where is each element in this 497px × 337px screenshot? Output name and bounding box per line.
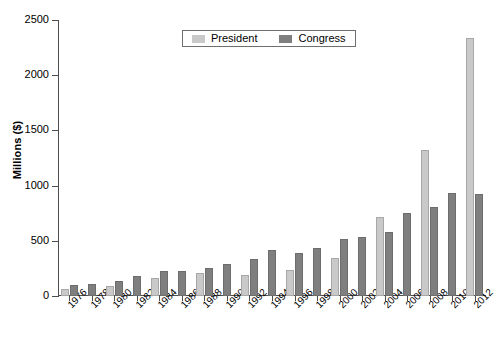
bar-congress-2006 [403, 213, 411, 296]
bar-congress-2002 [358, 237, 366, 296]
bar-congress-1992 [250, 259, 258, 296]
bar-group [171, 20, 194, 296]
legend-entry-congress: Congress [279, 33, 345, 44]
legend-swatch-president-icon [192, 35, 205, 43]
bar-president-1980 [106, 286, 114, 296]
bar-president-1988 [196, 273, 204, 296]
bar-congress-1982 [133, 276, 141, 296]
bar-congress-1980 [115, 281, 123, 296]
bar-group [81, 20, 104, 296]
bar-group [103, 20, 126, 296]
legend-swatch-congress-icon [279, 35, 292, 43]
chart-legend: PresidentCongress [182, 30, 356, 47]
bar-group [238, 20, 261, 296]
bar-congress-1994 [268, 250, 276, 296]
bar-congress-1986 [178, 271, 186, 296]
bar-president-2008 [421, 150, 429, 296]
legend-label: President [211, 33, 257, 44]
bar-president-2012 [466, 38, 474, 296]
bar-president-1996 [286, 270, 294, 296]
bar-congress-1990 [223, 264, 231, 296]
bar-congress-1976 [70, 285, 78, 296]
bar-group [463, 20, 486, 296]
bar-group [58, 20, 81, 296]
bar-congress-1978 [88, 284, 96, 296]
bar-president-2004 [376, 217, 384, 296]
bar-group [193, 20, 216, 296]
y-axis-tick-label: 1000 [5, 180, 49, 191]
bar-group [261, 20, 284, 296]
y-axis-tick-label: 2000 [5, 69, 49, 80]
bar-congress-2000 [340, 239, 348, 296]
bar-congress-2010 [448, 193, 456, 296]
bar-group [306, 20, 329, 296]
bar-president-2000 [331, 258, 339, 296]
bar-group [148, 20, 171, 296]
bar-chart: Millions ($) 05001000150020002500 197619… [0, 0, 497, 337]
bar-group [351, 20, 374, 296]
y-axis-tick [52, 296, 59, 297]
legend-entry-president: President [192, 33, 257, 44]
bar-group [216, 20, 239, 296]
bar-congress-2004 [385, 232, 393, 296]
bar-congress-1984 [160, 271, 168, 296]
bar-group [441, 20, 464, 296]
bar-group [283, 20, 306, 296]
bar-group [328, 20, 351, 296]
bar-congress-1998 [313, 248, 321, 296]
legend-label: Congress [298, 33, 345, 44]
bar-group [126, 20, 149, 296]
bar-congress-1996 [295, 253, 303, 296]
bar-president-1984 [151, 278, 159, 296]
plot-area [58, 20, 486, 296]
bar-congress-2008 [430, 207, 438, 296]
y-axis-tick-label: 500 [5, 235, 49, 246]
y-axis-tick-label: 0 [5, 290, 49, 301]
y-axis-tick-label: 1500 [5, 124, 49, 135]
bar-congress-2012 [475, 194, 483, 296]
bar-group [373, 20, 396, 296]
bar-group [418, 20, 441, 296]
y-axis-tick-label: 2500 [5, 14, 49, 25]
bar-president-1992 [241, 275, 249, 296]
bar-group [396, 20, 419, 296]
y-axis-tick-labels: 05001000150020002500 [0, 0, 49, 337]
bar-congress-1988 [205, 268, 213, 296]
bar-president-1976 [61, 289, 69, 296]
